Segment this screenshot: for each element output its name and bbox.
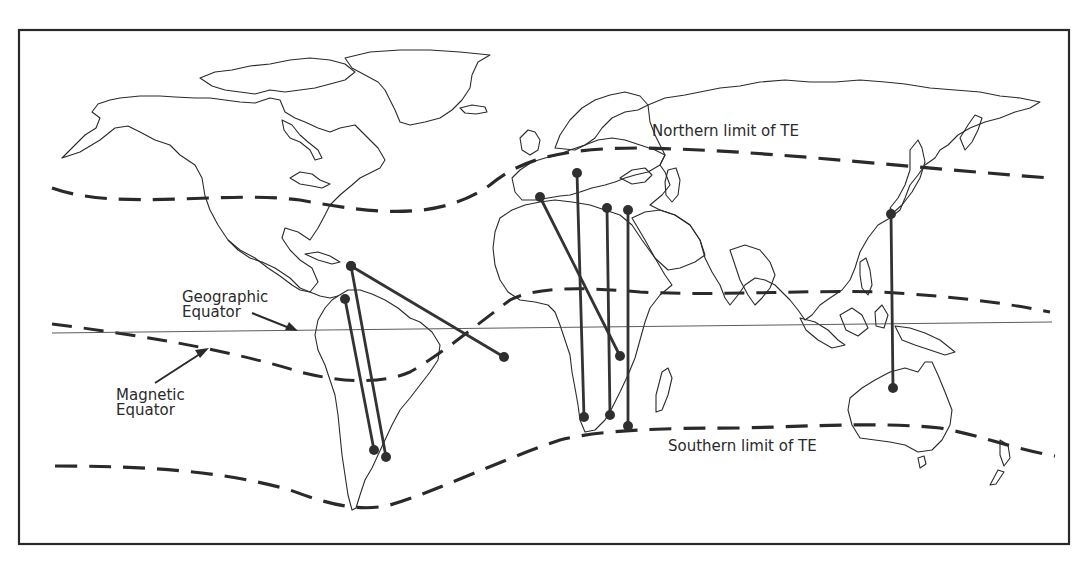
magnetic-equator-arrow: [155, 352, 203, 383]
cuba-outline: [305, 252, 340, 264]
hudson-bay-outline: [282, 120, 322, 160]
landmasses: [62, 50, 1040, 510]
southern-limit-of-te-line: [55, 425, 1055, 508]
tasmania-outline: [918, 456, 926, 468]
south-america-outline: [315, 290, 440, 510]
geographic-equator-label-line2: Equator: [182, 303, 242, 321]
northern-limit-label: Northern limit of TE: [652, 122, 799, 140]
geographic-equator-arrow: [252, 313, 292, 329]
scandinavia-outline: [555, 92, 648, 150]
geographic-equator-line: [52, 322, 1052, 333]
path-start-dot: [623, 205, 633, 215]
path-end-dot: [381, 452, 391, 462]
madagascar-outline: [656, 368, 672, 412]
path-end-dot: [499, 352, 509, 362]
northern-limit-of-te-line: [52, 148, 1050, 211]
magnetic-equator-label-line2: Equator: [116, 401, 176, 419]
black-sea-outline: [620, 168, 652, 184]
path-end-dot: [579, 412, 589, 422]
path-end-dot: [888, 383, 898, 393]
map-frame: [19, 30, 1069, 544]
path-start-dot: [535, 192, 545, 202]
british-isles-outline: [520, 130, 540, 155]
new-guinea-outline: [895, 326, 955, 355]
path-japan-to-australia: [891, 214, 893, 388]
path-caribbean-to-south-atlantic: [351, 266, 504, 357]
southern-limit-label: Southern limit of TE: [668, 437, 817, 455]
path-start-dot: [346, 261, 356, 271]
path-end-dot: [369, 445, 379, 455]
path-start-dot: [572, 168, 582, 178]
great-lakes-outline: [290, 172, 330, 188]
path-start-dot: [886, 209, 896, 219]
iceland-outline: [460, 105, 487, 114]
te-paths: [340, 168, 898, 462]
kamchatka-outline: [960, 115, 982, 150]
japan-outline: [890, 140, 925, 212]
geographic-equator-arrowhead: [285, 322, 298, 331]
path-start-dot: [340, 294, 350, 304]
label-arrows: [155, 313, 298, 383]
middle-east-outline: [632, 210, 705, 270]
arctic-islands-outline: [200, 58, 355, 94]
caspian-sea-outline: [665, 168, 680, 202]
path-italy-to-south-africa: [577, 173, 584, 417]
path-end-dot: [605, 410, 615, 420]
path-end-dot: [615, 351, 625, 361]
path-start-dot: [602, 203, 612, 213]
world-map: Northern limit of TE Southern limit of T…: [0, 0, 1082, 566]
new-zealand-outline: [990, 440, 1010, 485]
philippines-outline: [860, 258, 872, 295]
asia-outline: [648, 80, 1040, 320]
path-end-dot: [623, 421, 633, 431]
australia-outline: [848, 362, 952, 452]
indonesia-outline: [800, 305, 888, 348]
path-greece-to-south-africa: [607, 208, 610, 415]
